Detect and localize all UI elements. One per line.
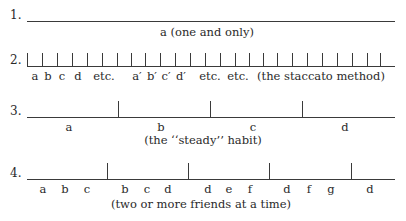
timeline-tick [131, 53, 132, 66]
timeline-tick [210, 101, 211, 117]
row-number: 1. [10, 8, 21, 22]
timeline-tick [249, 53, 250, 66]
timeline-tick [190, 53, 191, 66]
segment-label: etc. [199, 69, 221, 83]
segment-label: e [226, 182, 233, 196]
segment-label: b′ [147, 69, 157, 83]
timeline-tick [351, 163, 352, 179]
timeline-tick [87, 53, 88, 66]
timeline-tick [380, 53, 381, 66]
segment-label: d [366, 182, 373, 196]
timeline-tick [322, 53, 323, 66]
row-caption: (two or more friends at a time) [111, 197, 291, 211]
timeline-tick [205, 53, 206, 66]
timeline-tick [263, 53, 264, 66]
segment-label: a [32, 69, 39, 83]
timeline-tick [117, 53, 118, 66]
segment-label: c [144, 182, 150, 196]
timeline-tick [57, 53, 58, 66]
timeline-tick [337, 53, 338, 66]
timeline-tick [42, 53, 43, 66]
timeline-line [27, 179, 395, 180]
row-number: 2. [10, 53, 21, 67]
segment-label: d [164, 182, 171, 196]
timeline-tick [102, 53, 103, 66]
row-number: 3. [10, 104, 21, 118]
timeline-tick [72, 53, 73, 66]
timeline-tick [118, 101, 119, 117]
timeline-tick [302, 101, 303, 117]
timeline-tick [175, 53, 176, 66]
timeline-tick [367, 53, 368, 66]
timeline-tick [352, 53, 353, 66]
segment-label: a [66, 120, 73, 134]
segment-label: b [44, 69, 51, 83]
segment-label: d′ [176, 69, 186, 83]
segment-label: a′ [132, 69, 141, 83]
timeline-tick [235, 53, 236, 66]
segment-label: g [327, 182, 334, 196]
segment-label: b [121, 182, 128, 196]
segment-label: d [283, 182, 290, 196]
segment-label: d [74, 69, 81, 83]
timeline-line [27, 117, 395, 118]
timeline-tick [160, 53, 161, 66]
timeline-tick [27, 53, 28, 66]
timeline-tick [188, 163, 189, 179]
timeline-line [27, 66, 395, 67]
segment-label: etc. [93, 69, 115, 83]
segment-label: a [40, 182, 47, 196]
timeline-tick [269, 163, 270, 179]
timeline-tick [307, 53, 308, 66]
timeline-tick [277, 53, 278, 66]
segment-label: f [307, 182, 311, 196]
row-caption: (the ‘‘steady’’ habit) [144, 133, 262, 147]
segment-label: b [61, 182, 68, 196]
row-number: 4. [10, 166, 21, 180]
segment-label: d [204, 182, 211, 196]
timeline-tick [107, 163, 108, 179]
segment-label: c [84, 182, 90, 196]
segment-label: d [341, 120, 348, 134]
segment-label: c′ [161, 69, 170, 83]
segment-label: f [248, 182, 252, 196]
segment-label: (the staccato method) [257, 69, 385, 83]
segment-label: c [59, 69, 65, 83]
segment-label: c [250, 120, 256, 134]
timeline-tick [220, 53, 221, 66]
timeline-line [27, 21, 395, 22]
timeline-tick [292, 53, 293, 66]
timeline-tick [145, 53, 146, 66]
row-caption: a (one and only) [160, 25, 254, 39]
segment-label: etc. [227, 69, 249, 83]
segment-label: b [157, 120, 164, 134]
